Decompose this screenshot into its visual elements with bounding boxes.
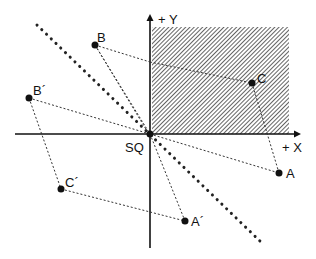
x-axis-arrow-icon	[294, 131, 301, 138]
point-a-prime	[182, 218, 189, 225]
label-c-prime: C´	[65, 175, 79, 190]
point-a	[276, 170, 283, 177]
point-c	[249, 80, 256, 87]
label-a: A	[286, 166, 295, 181]
label-c: C	[257, 71, 266, 86]
label-a-prime: A´	[191, 214, 204, 229]
point-c-prime	[58, 186, 65, 193]
coordinate-diagram: + Y + X SQ A A´ B B´ C C´	[0, 0, 316, 259]
x-axis-label: + X	[282, 140, 302, 155]
label-b: B	[97, 30, 106, 45]
point-b-prime	[26, 95, 33, 102]
y-axis-label: + Y	[158, 12, 178, 27]
origin-point	[147, 131, 154, 138]
origin-label: SQ	[125, 140, 144, 155]
label-b-prime: B´	[33, 83, 46, 98]
y-axis-arrow-icon	[147, 14, 154, 21]
shaded-quadrant	[152, 27, 289, 134]
